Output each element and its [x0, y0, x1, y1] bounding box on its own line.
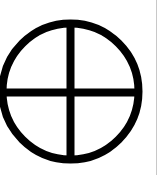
right-edge-divider [156, 0, 157, 175]
circle-cross-icon [0, 0, 161, 175]
